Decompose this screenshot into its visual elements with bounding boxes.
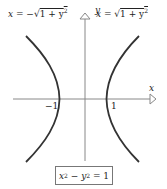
left-eq-radicand-text: 1 + y: [40, 9, 64, 19]
diagram-canvas: [0, 0, 167, 189]
y-axis-label: y: [95, 6, 100, 15]
y-axis-arrow-icon: [80, 13, 90, 19]
right-branch-equation: x = √1 + y2: [96, 10, 148, 19]
eq-minus: −: [68, 171, 81, 181]
tick-label-neg-one: −1: [45, 102, 58, 111]
left-eq-prefix: x = −: [8, 9, 34, 19]
right-eq-radicand-text: 1 + y: [120, 9, 144, 19]
right-eq-radicand: 1 + y2: [120, 9, 148, 19]
eq-rhs: = 1: [90, 171, 109, 181]
left-eq-exponent: 2: [64, 7, 68, 14]
hyperbola-diagram: x = −√1 + y2 x = √1 + y2 y x −1 1 x2 − y…: [0, 0, 167, 189]
x-axis-arrow-icon: [150, 94, 156, 104]
equation-box: x2 − y2 = 1: [55, 166, 113, 185]
right-eq-exponent: 2: [144, 7, 148, 14]
left-eq-radicand: 1 + y2: [40, 9, 68, 19]
left-branch-equation: x = −√1 + y2: [8, 10, 68, 19]
x-axis-label: x: [149, 84, 154, 93]
tick-label-one: 1: [111, 102, 117, 111]
